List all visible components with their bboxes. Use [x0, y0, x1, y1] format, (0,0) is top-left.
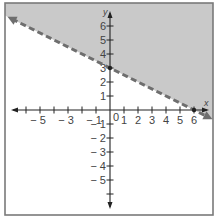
y-tick-label: 6: [100, 20, 106, 32]
x-tick-label: 6: [191, 114, 197, 126]
y-axis-down-arrow-icon: [108, 202, 113, 209]
x-axis-left-arrow-icon: [11, 108, 18, 113]
x-tick-label: 3: [149, 114, 155, 126]
x-tick-label: − 3: [58, 114, 74, 126]
origin-label: 0: [113, 111, 119, 123]
x-tick-label: 1: [121, 114, 127, 126]
intercept-point: [192, 108, 196, 112]
plot-area: − 5− 3− 1123456654321− 1− 2− 3− 4− 50yx: [5, 3, 213, 215]
x-axis-label: x: [203, 98, 209, 108]
y-tick-label: 4: [100, 48, 106, 60]
shaded-region: [5, 3, 213, 120]
y-tick-label: − 3: [90, 146, 106, 158]
inequality-graph: − 5− 3− 1123456654321− 1− 2− 3− 4− 50yx: [0, 0, 216, 221]
y-axis-label: y: [102, 7, 108, 17]
y-tick-label: 1: [100, 90, 106, 102]
y-tick-label: 5: [100, 34, 106, 46]
y-tick-label: − 2: [90, 132, 106, 144]
x-tick-label: 5: [177, 114, 183, 126]
x-tick-label: 4: [163, 114, 169, 126]
y-tick-label: − 5: [90, 174, 106, 186]
x-tick-label: 2: [135, 114, 141, 126]
y-tick-label: − 4: [90, 160, 106, 172]
x-tick-label: − 5: [30, 114, 46, 126]
y-tick-label: − 1: [90, 118, 106, 130]
y-tick-label: 2: [100, 76, 106, 88]
intercept-point: [108, 66, 112, 70]
